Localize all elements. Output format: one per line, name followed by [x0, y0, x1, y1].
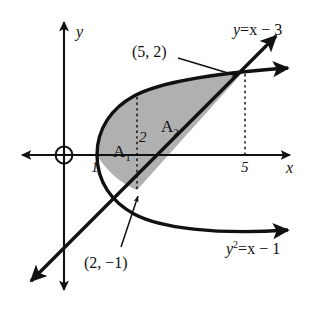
math-figure: x y 1 2 5 A1 A2 (5, 2) (2, −1) y=x − 3 y…	[0, 0, 320, 312]
area-label-a1: A1	[113, 143, 131, 163]
area-label-a2-sub: 2	[173, 126, 179, 138]
parabola-equation-label: y2=x − 1	[226, 240, 280, 257]
leader-arrow-point-5-2	[178, 58, 238, 76]
point-label-2-neg1: (2, −1)	[84, 255, 128, 271]
y-axis-label: y	[76, 24, 83, 40]
point-label-5-2: (5, 2)	[132, 44, 167, 60]
line-equation-rhs: =x − 3	[240, 21, 282, 38]
area-label-a2: A2	[161, 118, 179, 138]
line-equation-label: y=x − 3	[233, 22, 282, 38]
area-label-a2-base: A	[161, 117, 173, 136]
area-label-a1-base: A	[113, 142, 125, 161]
tick-label-5: 5	[241, 160, 249, 175]
x-axis-label: x	[286, 160, 293, 176]
area-label-a1-sub: 1	[125, 151, 131, 163]
tick-label-1: 1	[91, 160, 99, 175]
tick-label-2: 2	[139, 130, 147, 145]
parabola-equation-rhs: =x − 1	[238, 240, 280, 257]
leader-arrow-point-2-neg1	[121, 196, 138, 247]
